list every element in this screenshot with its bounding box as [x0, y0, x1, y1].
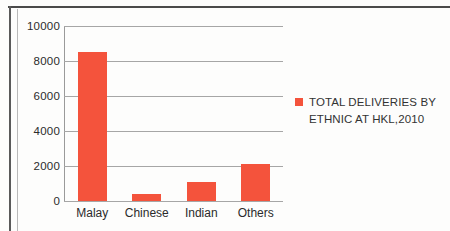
bar-slot [65, 26, 120, 201]
page-border-top [8, 6, 450, 8]
scanned-page: 0200040006000800010000 MalayChineseIndia… [0, 0, 450, 231]
bar-others [241, 164, 270, 201]
bar-slot [120, 26, 175, 201]
bar-slot [174, 26, 229, 201]
legend-label: TOTAL DELIVERIES BY ETHNIC AT HKL,2010 [309, 94, 436, 128]
page-border-left-inner [17, 9, 18, 231]
legend-color-swatch [295, 98, 303, 106]
chart-legend: TOTAL DELIVERIES BY ETHNIC AT HKL,2010 [295, 94, 447, 128]
y-axis-tick-label: 10000 [27, 20, 60, 32]
bar-slot [229, 26, 284, 201]
y-axis-tick-label: 8000 [34, 55, 60, 67]
y-axis-tick-label: 2000 [34, 160, 60, 172]
y-axis-tick-label: 6000 [34, 90, 60, 102]
bar-malay [78, 52, 107, 201]
bar-chinese [132, 194, 161, 201]
plot-area [64, 26, 283, 201]
bar-series [65, 26, 283, 201]
y-axis-tick-label: 0 [53, 195, 60, 207]
legend-label-line1: TOTAL DELIVERIES BY [309, 96, 436, 108]
y-axis: 0200040006000800010000 [20, 26, 60, 201]
x-axis-tick-label: Chinese [120, 206, 175, 220]
bar-chart: 0200040006000800010000 MalayChineseIndia… [20, 10, 450, 231]
x-axis-tick-label: Indian [174, 206, 229, 220]
y-axis-tick-label: 4000 [34, 125, 60, 137]
x-axis-tick-label: Malay [65, 206, 120, 220]
page-border-left-outer [9, 6, 11, 231]
x-axis-tick-label: Others [229, 206, 284, 220]
gridline [64, 201, 283, 202]
bar-indian [187, 182, 216, 201]
legend-label-line2: ETHNIC AT HKL,2010 [309, 113, 424, 125]
x-axis: MalayChineseIndianOthers [65, 206, 283, 220]
